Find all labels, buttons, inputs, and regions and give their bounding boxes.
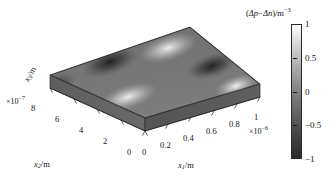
x2-axis-label-unit: /m [41,159,50,169]
colorbar-label-1: 1 [305,20,310,29]
x2-tick-label-0: 0 [127,148,131,157]
colorbar-title-delta-p: Δp [249,8,258,18]
x1-tick-0p6 [212,111,215,116]
x1-tick-label-0p2: 0.2 [160,141,171,150]
x2-exponent-mantissa: ×10 [6,97,19,106]
colorbar-label-neg1: −1 [305,155,315,164]
x1-tick-label-0p4: 0.4 [183,134,194,143]
x2-tick-label-2: 2 [103,137,107,146]
x1-tick-label-1: 1 [254,113,258,122]
colorbar-group: (Δp−Δn)/m−3 1 0.5 0 −0.5 −1 [289,24,332,170]
x1-axis-exponent: ×10−6 [249,128,268,136]
colorbar-title-delta-n: Δn [263,8,272,18]
x1-tick-0 [143,131,146,136]
x2-exponent-power: −7 [19,95,25,101]
x2-tick-label-6: 6 [55,115,59,124]
x2-tick-0 [145,131,148,136]
plot-scene [0,0,290,150]
figure-3d-surface-plot: 8 6 4 2 0 0 0.2 0.4 0.6 0.8 1 ×10−7 ×10−… [0,0,332,182]
x1-tick-label-0: 0 [142,148,146,157]
x2-tick-label-4: 4 [79,126,83,135]
x2-axis-label: x2/m [34,160,50,169]
colorbar-label-neg0p5: −0.5 [305,121,321,130]
x1-exponent-power: −6 [262,125,268,131]
colorbar-tickmark-0p5 [293,58,297,59]
colorbar-title-unit: /m [275,8,284,18]
x1-tick-label-0p6: 0.6 [206,127,217,136]
x1-axis-label-unit: /m [185,160,194,170]
colorbar-title: (Δp−Δn)/m−3 [246,9,291,18]
colorbar-label-0: 0 [305,87,310,96]
x1-tick-label-0p8: 0.8 [229,120,240,129]
x1-axis-label: x1/m [178,161,194,170]
x2-tick-label-8: 8 [31,104,35,113]
colorbar-tickmark-0 [293,92,297,93]
colorbar-tickmark-neg0p5 [293,125,297,126]
colorbar-title-unit-exp: −3 [284,6,291,13]
colorbar-label-0p5: 0.5 [305,53,316,62]
x2-axis-exponent: ×10−7 [6,98,25,106]
x1-exponent-mantissa: ×10 [249,127,262,136]
